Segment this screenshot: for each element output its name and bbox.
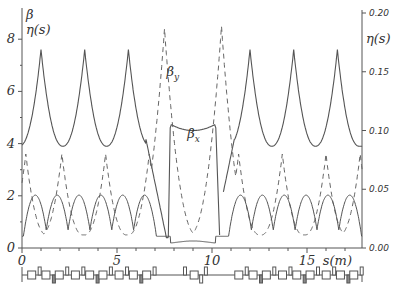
- y-axis-label-beta: β: [25, 7, 34, 22]
- beta-x-curve: [22, 50, 168, 238]
- dipole-magnet: [99, 271, 107, 279]
- lattice-function-chart: 024680.000.050.100.150.20051015s(m)βη(s)…: [0, 0, 401, 288]
- lattice-strip: [22, 267, 363, 283]
- dipole-magnet: [306, 271, 314, 279]
- x-tick-label: 15: [299, 253, 316, 268]
- dipole-magnet: [115, 271, 123, 279]
- dipole-magnet: [190, 271, 198, 279]
- quadrupole-focusing: [317, 267, 320, 275]
- quadrupole-focusing: [153, 267, 156, 275]
- right-tick-label: 0.15: [369, 67, 389, 77]
- quadrupole-focusing: [204, 267, 207, 275]
- quadrupole-defocusing: [200, 275, 203, 283]
- quadrupole-focusing: [126, 267, 129, 275]
- eta-curve: [22, 195, 362, 243]
- dipole-magnet: [350, 271, 358, 279]
- dipole-magnet: [235, 271, 243, 279]
- quadrupole-focusing: [333, 267, 336, 275]
- dipole-magnet: [42, 271, 50, 279]
- x-tick-label: 10: [204, 253, 221, 268]
- left-tick-label: 8: [7, 31, 15, 46]
- quadrupole-focusing: [184, 267, 187, 275]
- right-tick-label: 0.05: [369, 184, 389, 194]
- dipole-magnet: [279, 271, 287, 279]
- labels: 024680.000.050.100.150.20051015s(m)βη(s)…: [6, 7, 391, 268]
- left-tick-label: 6: [7, 83, 15, 98]
- dipole-magnet: [71, 271, 79, 279]
- annotation-beta-x: βx: [186, 126, 200, 144]
- quadrupole-focusing: [109, 267, 112, 275]
- right-tick-label: 0.10: [369, 126, 389, 136]
- right-tick-label: 0.20: [369, 8, 389, 18]
- left-tick-label: 4: [6, 136, 15, 151]
- annotation-beta-y: βy: [165, 64, 180, 82]
- quadrupole-focusing: [360, 267, 363, 275]
- dipole-magnet: [28, 271, 36, 279]
- quadrupole-focusing: [66, 267, 69, 275]
- quadrupole-focusing: [38, 267, 41, 275]
- quadrupole-focusing: [82, 267, 85, 275]
- x-tick-label: 0: [18, 253, 26, 268]
- dipole-magnet: [143, 271, 151, 279]
- dipole-magnet: [293, 271, 301, 279]
- quadrupole-focusing: [245, 267, 248, 275]
- quadrupole-focusing: [273, 267, 276, 275]
- right-axis-label: η(s): [366, 31, 391, 46]
- dipole-magnet: [336, 271, 344, 279]
- dipole-magnet: [86, 271, 94, 279]
- left-tick-label: 2: [6, 188, 15, 203]
- beta-x-curve-2: [223, 50, 362, 192]
- right-tick-label: 0.00: [369, 243, 389, 253]
- dipole-magnet: [129, 271, 137, 279]
- dipole-magnet: [262, 271, 270, 279]
- y-axis-label-eta: η(s): [26, 22, 51, 37]
- quadrupole-focusing: [289, 267, 292, 275]
- x-axis-label: s(m): [323, 253, 352, 268]
- dipole-magnet: [55, 271, 63, 279]
- dipole-magnet: [249, 271, 257, 279]
- dipole-magnet: [322, 271, 330, 279]
- left-tick-label: 0: [7, 240, 15, 255]
- x-tick-label: 5: [113, 253, 121, 268]
